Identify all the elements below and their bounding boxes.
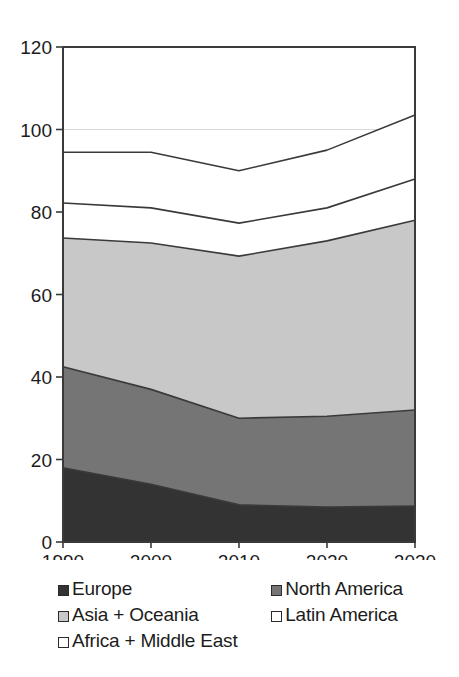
legend-swatch-asia-oceania (58, 611, 69, 622)
legend-row: Europe North America (58, 578, 459, 604)
legend-item-asia-oceania: Asia + Oceania (58, 604, 271, 626)
legend-item-africa-middle-east: Africa + Middle East (58, 630, 285, 652)
y-tick-label: 60 (31, 285, 52, 306)
y-tick-label: 100 (20, 120, 52, 141)
legend-label-asia-oceania: Asia + Oceania (72, 604, 199, 626)
x-tick-label: 2010 (218, 551, 260, 560)
legend-swatch-latin-america (271, 611, 282, 622)
x-tick-label: 2020 (306, 551, 348, 560)
y-tick-label: 80 (31, 202, 52, 223)
chart-svg: 020406080100120 19902000201020202030 (0, 0, 459, 560)
legend-label-latin-america: Latin America (285, 604, 398, 626)
legend-row: Africa + Middle East (58, 630, 459, 656)
y-tick-label: 20 (31, 450, 52, 471)
y-tick-label: 0 (41, 532, 52, 553)
y-tick-label: 120 (20, 37, 52, 58)
legend-label-europe: Europe (72, 578, 132, 600)
x-tick-label: 1990 (42, 551, 84, 560)
legend-swatch-europe (58, 585, 69, 596)
legend-row: Asia + Oceania Latin America (58, 604, 459, 630)
y-axis-ticks-group: 020406080100120 (20, 37, 63, 553)
stacked-area-chart-figure: 020406080100120 19902000201020202030 Eur… (0, 0, 459, 677)
chart-legend: Europe North America Asia + Oceania Lati… (0, 578, 459, 668)
legend-item-north-america: North America (271, 578, 459, 600)
legend-label-africa-middle-east: Africa + Middle East (72, 630, 238, 652)
x-axis-ticks-group: 19902000201020202030 (42, 542, 436, 560)
legend-label-north-america: North America (285, 578, 403, 600)
legend-swatch-north-america (271, 585, 282, 596)
legend-swatch-africa-middle-east (58, 637, 69, 648)
legend-item-latin-america: Latin America (271, 604, 459, 626)
x-tick-label: 2030 (394, 551, 436, 560)
y-tick-label: 40 (31, 367, 52, 388)
legend-item-europe: Europe (58, 578, 271, 600)
chart-plot-area: 020406080100120 19902000201020202030 (0, 0, 459, 560)
x-tick-label: 2000 (130, 551, 172, 560)
